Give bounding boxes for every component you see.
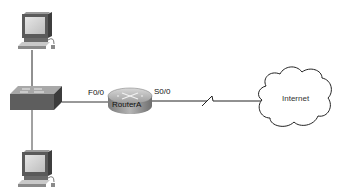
pc-bottom-icon[interactable] (18, 150, 55, 187)
switch-icon[interactable] (10, 86, 62, 110)
serial-link-router-internet (150, 96, 261, 106)
internet-label: Internet (282, 95, 309, 103)
pc-top-icon[interactable] (18, 12, 55, 49)
router-label: RouterA (112, 101, 141, 109)
interface-label-s0-0: S0/0 (154, 88, 170, 96)
interface-label-f0-0: F0/0 (88, 89, 104, 97)
